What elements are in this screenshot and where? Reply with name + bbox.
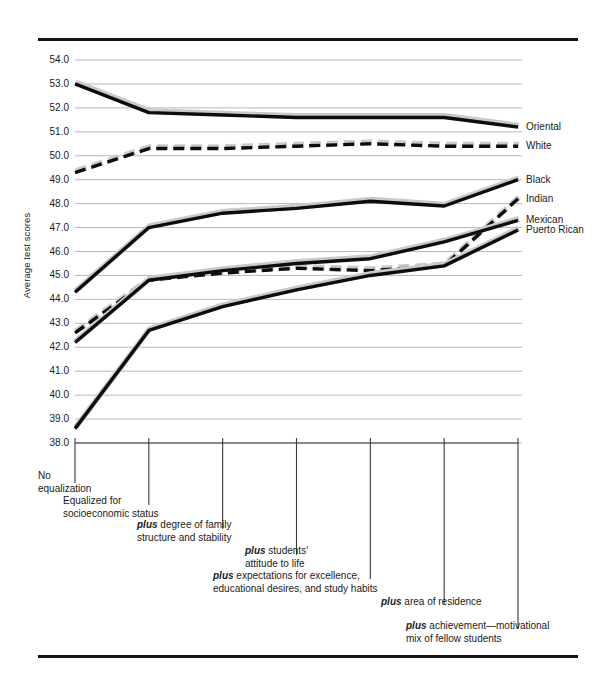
x-axis-category-label: plus expectations for excellence, educat… <box>213 570 378 595</box>
series-shadow-puerto-rican <box>76 228 519 427</box>
cat-label-emphasis: plus <box>213 570 234 581</box>
x-axis-category-label: Equalized for socioeconomic status <box>63 495 159 520</box>
series-label-black: Black <box>526 175 550 185</box>
series-label-oriental: Oriental <box>526 122 561 132</box>
series-shadow-mexican <box>76 219 519 341</box>
x-axis-category-label: plus area of residence <box>381 596 482 609</box>
cat-label-emphasis: plus <box>381 596 402 607</box>
series-label-indian: Indian <box>526 194 553 204</box>
cat-label-emphasis: plus <box>406 620 427 631</box>
series-label-white: White <box>526 141 552 151</box>
cat-label-emphasis: plus <box>137 519 158 530</box>
figure: Average test scores 54.053.052.051.050.0… <box>0 0 614 675</box>
series-label-puerto-rican: Puerto Rican <box>526 225 584 235</box>
x-axis-category-label: No equalization <box>38 470 91 495</box>
x-axis-category-label: plus students' attitude to life <box>245 545 308 570</box>
x-axis-category-label: plus degree of family structure and stab… <box>137 519 232 544</box>
cat-label-emphasis: plus <box>245 545 266 556</box>
series-line-mexican[interactable] <box>75 220 518 342</box>
x-axis-category-label: plus achievement—motivational mix of fel… <box>406 620 549 645</box>
